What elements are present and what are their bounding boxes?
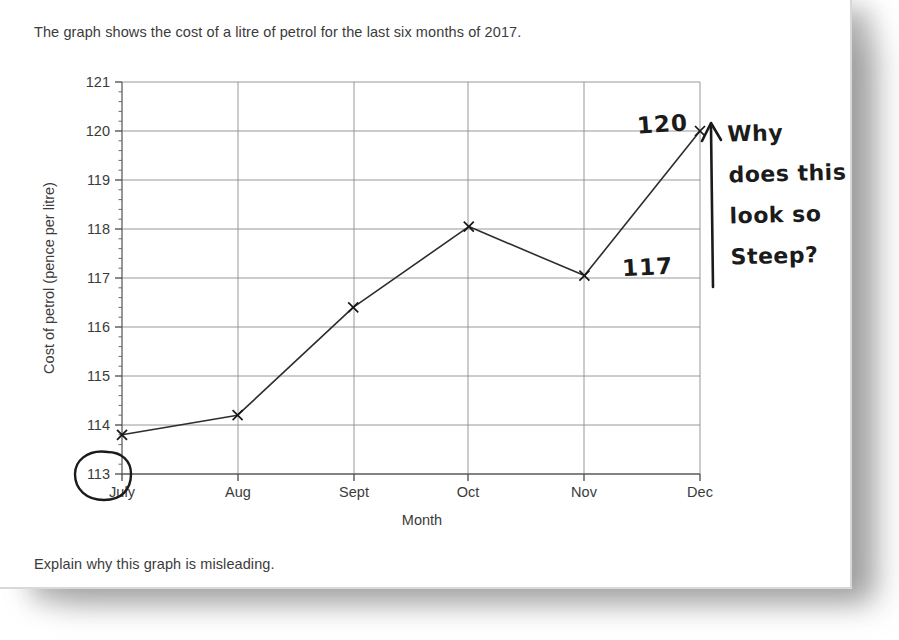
- y-tick-label: 120: [86, 123, 110, 139]
- x-tick-label-aug: Aug: [225, 484, 251, 500]
- paper-right-edge: [850, 0, 852, 589]
- up-arrow-icon: [702, 123, 721, 287]
- data-point-markers: [117, 126, 705, 440]
- x-axis-ticks: [122, 474, 700, 481]
- line-chart: 121 120 119 118 117 116 115 114 113 July…: [0, 0, 852, 545]
- question-prompt-text: Explain why this graph is misleading.: [34, 556, 275, 572]
- chart-canvas: 121 120 119 118 117 116 115 114 113 July…: [0, 0, 852, 545]
- x-tick-label-oct: Oct: [457, 484, 480, 500]
- x-tick-label-dec: Dec: [687, 484, 713, 500]
- y-tick-label: 113: [87, 466, 110, 482]
- data-series-line: [122, 131, 700, 435]
- x-axis-tick-labels: July Aug Sept Oct Nov Dec: [109, 484, 713, 500]
- x-tick-label-sept: Sept: [339, 484, 369, 500]
- paper-bottom-edge: [0, 587, 852, 589]
- y-tick-label: 114: [87, 417, 110, 433]
- y-tick-label: 116: [87, 319, 110, 335]
- x-tick-label-july: July: [109, 484, 136, 500]
- y-tick-label: 121: [86, 74, 110, 90]
- x-axis-title: Month: [402, 512, 442, 528]
- y-tick-label: 119: [87, 172, 110, 188]
- scanned-worksheet-page: The graph shows the cost of a litre of p…: [0, 0, 899, 640]
- horizontal-gridlines: [122, 82, 700, 474]
- paper-sheet: The graph shows the cost of a litre of p…: [0, 0, 852, 589]
- y-axis-tick-labels: 121 120 119 118 117 116 115 114 113: [86, 74, 110, 482]
- y-axis-title: Cost of petrol (pence per litre): [41, 182, 57, 374]
- y-tick-label: 118: [87, 221, 110, 237]
- y-tick-label: 115: [87, 368, 110, 384]
- x-tick-label-nov: Nov: [571, 484, 598, 500]
- y-tick-label: 117: [87, 270, 110, 286]
